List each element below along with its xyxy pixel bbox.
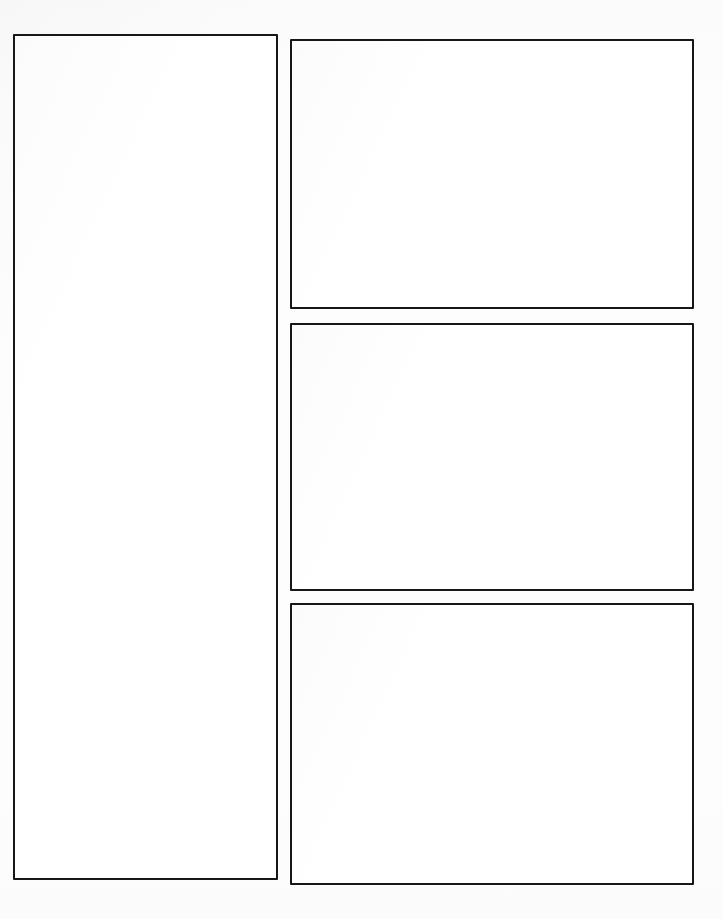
left-column-panel[interactable] bbox=[13, 34, 278, 880]
right-middle-panel-content bbox=[292, 325, 692, 589]
right-top-panel-content bbox=[292, 41, 692, 307]
right-bottom-panel[interactable] bbox=[290, 603, 694, 885]
right-top-panel[interactable] bbox=[290, 39, 694, 309]
left-column-panel-content bbox=[15, 36, 276, 878]
right-bottom-panel-content bbox=[292, 605, 692, 883]
page-canvas bbox=[0, 0, 723, 919]
right-middle-panel[interactable] bbox=[290, 323, 694, 591]
